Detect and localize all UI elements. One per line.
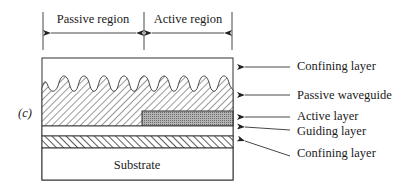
callout-label-passive-waveguide: Passive waveguide	[297, 88, 392, 102]
layered-waveguide-diagram: Passive region Active region Substrate (…	[0, 0, 402, 184]
arrow-guiding-layer	[245, 127, 290, 130]
callout-label-lower-confining: Confining layer	[297, 146, 377, 160]
active-layer	[142, 111, 233, 126]
active-region-label: Active region	[154, 12, 223, 26]
passive-region-label: Passive region	[57, 12, 130, 26]
lower-confining-layer	[42, 136, 233, 148]
guiding-layer	[42, 126, 233, 136]
substrate-label: Substrate	[114, 158, 161, 172]
callout-label-active-layer: Active layer	[297, 109, 359, 123]
callout-label-guiding-layer: Guiding layer	[297, 124, 367, 138]
panel-label: (c)	[18, 106, 32, 120]
arrow-lower-confining	[245, 141, 290, 156]
callout-arrows	[245, 67, 290, 156]
callout-label-upper-confining: Confining layer	[297, 59, 377, 73]
